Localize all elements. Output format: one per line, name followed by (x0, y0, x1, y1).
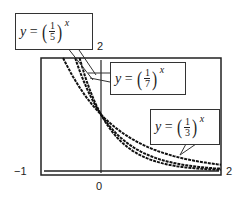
exponent: x (65, 17, 69, 28)
frac-den: 3 (185, 128, 190, 138)
label-equals: = (30, 24, 38, 40)
frac-num: 1 (185, 117, 190, 127)
label-equals: = (125, 71, 133, 87)
paren-open: ( (42, 21, 47, 43)
label-one-seventh: y = (17)x (110, 62, 186, 95)
label-y-var: y (155, 119, 161, 135)
label-one-fifth: y = (15)x (15, 13, 93, 50)
x-origin-tick-label: 0 (96, 180, 102, 192)
fraction: 15 (49, 21, 55, 42)
x-max-tick-label: 2 (226, 165, 232, 177)
frac-num: 1 (145, 68, 150, 78)
frac-num: 1 (50, 21, 55, 31)
paren-close: ) (153, 68, 158, 90)
x-min-tick-label: −1 (14, 165, 27, 177)
fraction: 17 (144, 68, 150, 89)
frac-den: 5 (50, 32, 55, 42)
frac-den: 7 (145, 79, 150, 89)
paren-close: ) (193, 116, 198, 138)
exponent: x (200, 113, 204, 124)
label-one-third: y = (13)x (150, 109, 220, 145)
fraction: 13 (184, 117, 190, 138)
paren-open: ( (137, 68, 142, 90)
exponent: x (160, 64, 164, 75)
label-y-var: y (20, 24, 26, 40)
paren-open: ( (177, 116, 182, 138)
label-y-var: y (115, 71, 121, 87)
paren-close: ) (58, 21, 63, 43)
y-max-tick-label: 2 (97, 40, 103, 52)
label-equals: = (165, 119, 173, 135)
